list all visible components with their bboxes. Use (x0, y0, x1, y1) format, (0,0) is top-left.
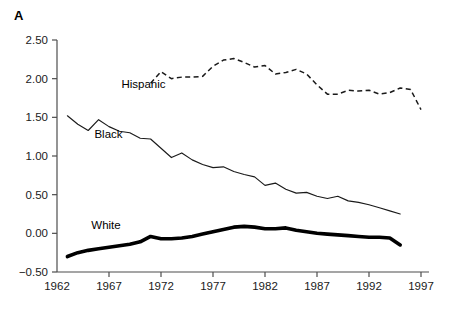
series-label-hispanic: Hispanic (121, 78, 165, 90)
line-chart: −0.500.000.501.001.502.002.50 1962196719… (0, 0, 456, 316)
x-tick-label: 1987 (304, 280, 330, 292)
y-tick-label: 2.50 (26, 34, 48, 46)
x-tick-label: 1962 (44, 280, 70, 292)
series-label-white: White (91, 219, 120, 231)
y-tick-label: 2.00 (26, 73, 48, 85)
series-label-black: Black (94, 128, 122, 140)
y-axis: −0.500.000.501.001.502.002.50 (19, 34, 57, 278)
y-tick-label: 0.50 (26, 189, 48, 201)
x-tick-label: 1997 (408, 280, 434, 292)
x-tick-label: 1972 (148, 280, 174, 292)
x-tick-label: 1982 (252, 280, 278, 292)
y-tick-label: 0.00 (26, 227, 48, 239)
x-tick-label: 1992 (356, 280, 382, 292)
figure-panel-a: A −0.500.000.501.001.502.002.50 19621967… (0, 0, 456, 316)
series-labels: HispanicBlackWhite (91, 78, 166, 232)
x-axis: 19621967197219771982198719921997 (44, 272, 434, 292)
y-tick-label: −0.50 (19, 266, 48, 278)
x-tick-label: 1967 (96, 280, 122, 292)
x-tick-label: 1977 (200, 280, 226, 292)
y-tick-label: 1.00 (26, 150, 48, 162)
y-tick-label: 1.50 (26, 111, 48, 123)
series-line-hispanic (151, 59, 421, 110)
